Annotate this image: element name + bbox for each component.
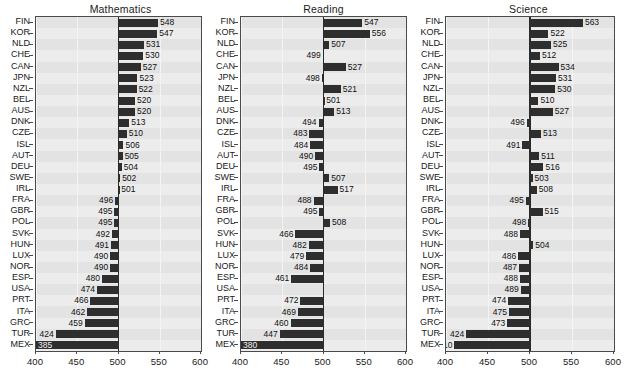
y-axis-tick-mark	[439, 22, 443, 23]
bar	[119, 85, 137, 93]
bar-value-label: 520	[137, 107, 151, 116]
y-axis-tick-label: ISL	[16, 140, 30, 149]
bar	[119, 52, 144, 60]
x-axis-tick-mark	[159, 351, 160, 354]
y-axis-tick-mark	[234, 77, 238, 78]
x-axis-tick-label: 400	[437, 357, 453, 367]
y-axis-tick-mark	[29, 100, 33, 101]
y-axis-tick-label: POL	[217, 217, 235, 226]
y-axis-tick-label: JPN	[423, 73, 440, 82]
y-axis-tick-mark	[234, 155, 238, 156]
bar	[119, 186, 120, 194]
y-axis-tick-mark	[439, 189, 443, 190]
y-axis-tick-mark	[439, 200, 443, 201]
y-axis-tick-mark	[29, 77, 33, 78]
y-axis-tick-mark	[439, 344, 443, 345]
bar	[454, 341, 530, 349]
y-axis-tick-mark	[29, 111, 33, 112]
bar-value-label: 534	[561, 63, 575, 72]
bar-value-label: 505	[125, 152, 139, 161]
y-axis-tick-mark	[439, 244, 443, 245]
bar	[314, 197, 324, 205]
bar	[315, 152, 323, 160]
y-axis-tick-mark	[439, 211, 443, 212]
bar-value-label: 380	[243, 341, 257, 350]
y-axis-labels-science: FINKORNLDCHECANJPNNZLBELAUSDNKCZEISLAUTD…	[410, 16, 443, 352]
bar	[319, 208, 323, 216]
x-axis-tick-mark	[445, 351, 446, 354]
y-axis-tick-label: AUT	[12, 151, 30, 160]
y-axis-tick-label: AUS	[421, 106, 440, 115]
y-axis-tick-mark	[29, 244, 33, 245]
y-axis-tick-mark	[29, 233, 33, 234]
x-axis-tick-label: 550	[151, 357, 167, 367]
bar-value-label: 531	[558, 74, 572, 83]
y-axis-tick-label: CHE	[11, 50, 30, 59]
y-axis-tick-label: USA	[11, 284, 30, 293]
bar	[322, 74, 324, 82]
bar-value-label: 502	[122, 174, 136, 183]
bar	[519, 264, 530, 272]
bar-value-label: 530	[557, 85, 571, 94]
y-axis-tick-mark	[439, 66, 443, 67]
y-axis-tick-label: FIN	[16, 17, 31, 26]
bar	[87, 308, 118, 316]
y-axis-tick-label: HUN	[11, 240, 31, 249]
x-axis-tick-mark	[240, 351, 241, 354]
y-axis-tick-mark	[29, 133, 33, 134]
bar	[530, 41, 551, 49]
bar	[530, 130, 541, 138]
y-axis-tick-label: NOR	[420, 262, 440, 271]
bar-value-label: 513	[336, 107, 350, 116]
bar	[324, 63, 346, 71]
bar	[508, 297, 530, 305]
y-axis-tick-label: ITA	[222, 307, 235, 316]
bar-value-label: 460	[274, 319, 288, 328]
x-axis-tick-label: 450	[273, 357, 289, 367]
y-axis-tick-label: JPN	[13, 73, 30, 82]
x-axis-tick-mark	[118, 351, 119, 354]
y-axis-tick-mark	[234, 100, 238, 101]
y-axis-tick-mark	[29, 166, 33, 167]
bar	[324, 186, 338, 194]
bar-value-label: 410	[445, 341, 452, 350]
x-axis-tick-mark	[200, 351, 201, 354]
y-axis-tick-label: SWE	[214, 173, 235, 182]
bar-value-label: 523	[139, 74, 153, 83]
bar-value-label: 462	[71, 308, 85, 317]
gridline	[241, 17, 242, 351]
x-axis-tick-label: 500	[315, 357, 331, 367]
y-axis-tick-mark	[234, 88, 238, 89]
bar	[319, 119, 324, 127]
y-axis-tick-label: GRC	[215, 318, 235, 327]
y-axis-tick-label: SWE	[419, 173, 440, 182]
y-axis-tick-label: HUN	[216, 240, 236, 249]
bar	[306, 252, 323, 260]
y-axis-tick-mark	[234, 33, 238, 34]
y-axis-tick-mark	[234, 322, 238, 323]
bar-value-label: 385	[38, 341, 52, 350]
plot-area-reading: 5475565074995274985215015134944834844904…	[240, 16, 407, 352]
y-axis-tick-mark	[234, 111, 238, 112]
y-axis-tick-label: DEU	[421, 162, 440, 171]
bar	[309, 241, 324, 249]
bar-value-label: 482	[292, 241, 306, 250]
bar	[119, 163, 122, 171]
bar-value-label: 494	[302, 118, 316, 127]
bar-value-label: 475	[493, 308, 507, 317]
y-axis-tick-label: NOR	[215, 262, 235, 271]
y-axis-tick-label: DNK	[216, 117, 235, 126]
bar-value-label: 447	[264, 330, 278, 339]
bar-value-label: 504	[124, 163, 138, 172]
y-axis-tick-label: USA	[216, 284, 235, 293]
bar-value-label: 459	[68, 319, 82, 328]
x-axis-tick-mark	[529, 351, 530, 354]
bar-value-label: 461	[275, 274, 289, 283]
y-axis-tick-mark	[29, 155, 33, 156]
y-axis-tick-label: SWE	[9, 173, 30, 182]
y-axis-tick-mark	[234, 200, 238, 201]
bar	[521, 286, 530, 294]
bar-value-label: 504	[535, 241, 549, 250]
x-axis-tick-mark	[487, 351, 488, 354]
x-axis-tick-label: 550	[563, 357, 579, 367]
